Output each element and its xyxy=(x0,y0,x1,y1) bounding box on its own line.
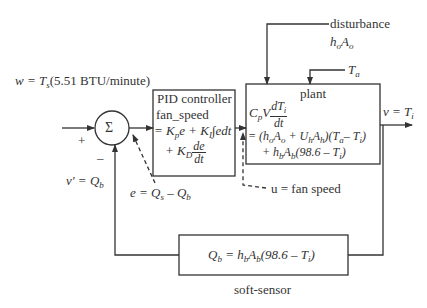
disturbance-title: disturbance xyxy=(330,16,390,31)
output-label: v = Ti xyxy=(383,104,414,124)
feedback-signal-label: v′ = Qb xyxy=(66,173,104,193)
pid-line1: fan_speed xyxy=(156,107,209,122)
plus-sign: + xyxy=(78,133,85,148)
ambient-arrow xyxy=(310,70,345,84)
control-signal-label: u = fan speed xyxy=(271,181,341,196)
disturbance-expr: hoAo xyxy=(330,34,353,54)
soft-sensor-caption: soft-sensor xyxy=(234,282,291,297)
ambient-label: Ta xyxy=(348,62,360,82)
pid-title: PID controller xyxy=(157,91,232,106)
plant-rhs-line2: + hbAb(98.6 – Ti) xyxy=(262,145,346,164)
error-pointer xyxy=(133,135,155,183)
minus-sign: – xyxy=(97,150,104,165)
plant-lhs: CpVdTidt xyxy=(249,100,287,129)
soft-sensor-equation: Qb = hbAb(98.6 – Ti) xyxy=(208,247,315,267)
disturbance-arrow xyxy=(267,24,329,84)
input-label: w = Ts(5.51 BTU/minute) xyxy=(15,73,150,93)
sigma-symbol: Σ xyxy=(105,120,113,135)
plant-title: plant xyxy=(300,86,326,101)
pid-line3: + KDdedt xyxy=(165,140,206,165)
error-signal-label: e = Qs – Qb xyxy=(130,185,191,205)
